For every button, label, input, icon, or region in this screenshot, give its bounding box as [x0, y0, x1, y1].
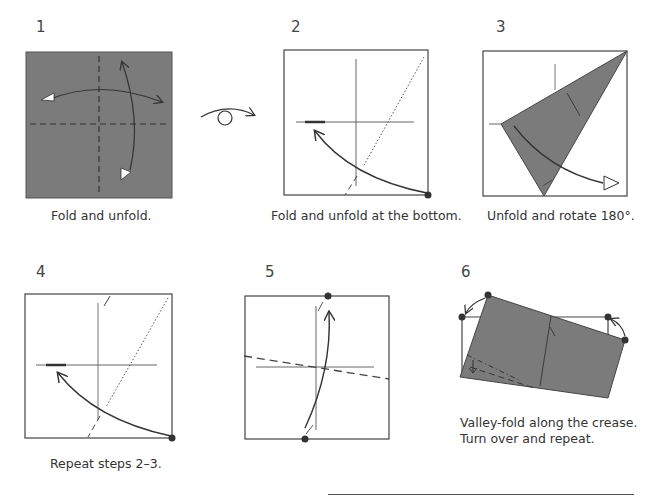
step-3-caption: Unfold and rotate 180°. — [487, 208, 635, 224]
reference-dot — [425, 192, 432, 199]
step-5-diagram — [244, 293, 389, 443]
step-4-caption: Repeat steps 2–3. — [50, 456, 162, 472]
turn-over-icon — [201, 109, 254, 125]
step-1-diagram — [26, 52, 172, 198]
step-4-diagram — [25, 294, 176, 442]
reference-dot — [622, 337, 629, 344]
step-1-number: 1 — [36, 18, 46, 36]
step-6-diagram — [459, 292, 629, 399]
step-4-number: 4 — [36, 263, 46, 281]
step-2-diagram — [284, 50, 432, 199]
step-3-number: 3 — [496, 18, 506, 36]
reference-dot — [459, 314, 466, 321]
reference-dot — [325, 293, 332, 300]
step-6-caption-line-1: Valley-fold along the crease. — [460, 415, 637, 431]
step-2-number: 2 — [291, 18, 301, 36]
reference-dot — [169, 435, 176, 442]
page-bottom-rule — [328, 494, 634, 495]
folded-paper — [460, 295, 625, 398]
step-3-diagram — [483, 51, 627, 196]
step-6-number: 6 — [461, 263, 471, 281]
reference-dot — [302, 436, 309, 443]
step-5-number: 5 — [265, 263, 275, 281]
fold-arrow — [611, 319, 625, 336]
reference-dot — [605, 314, 612, 321]
step-1-caption: Fold and unfold. — [51, 208, 152, 224]
reference-dot — [485, 292, 492, 299]
step-2-caption: Fold and unfold at the bottom. — [271, 208, 462, 224]
step-6-caption-line-2: Turn over and repeat. — [460, 431, 595, 447]
